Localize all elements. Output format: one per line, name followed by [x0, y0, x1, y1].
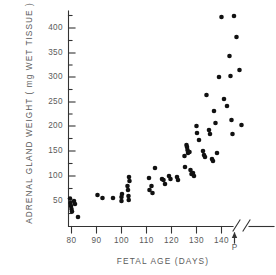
data-point	[127, 175, 132, 180]
scatter-plot-figure: ADRENAL GLAND WEIGHT ( mg WET TISSUE ) F…	[0, 0, 276, 275]
data-point	[126, 198, 131, 203]
axis-break-slash-1	[233, 220, 240, 231]
data-point	[168, 177, 173, 182]
data-point	[70, 209, 75, 214]
data-point	[126, 194, 131, 199]
data-point	[195, 131, 200, 136]
data-point	[153, 166, 158, 171]
x-tick-label: 120	[158, 236, 186, 245]
y-tick-label: 300	[33, 72, 63, 81]
data-point	[212, 109, 217, 114]
x-tick-label: 110	[133, 236, 161, 245]
data-point	[229, 118, 234, 123]
data-point	[194, 124, 199, 129]
data-point	[237, 68, 242, 73]
data-point	[119, 199, 124, 204]
x-tick-label: 90	[83, 236, 111, 245]
data-point	[230, 132, 235, 137]
data-point	[204, 93, 209, 98]
axes-group	[69, 11, 275, 243]
data-point	[203, 155, 208, 160]
data-point	[227, 54, 232, 59]
data-point	[163, 182, 168, 187]
x-axis-title: FETAL AGE (DAYS)	[68, 256, 258, 266]
data-point	[207, 128, 212, 133]
data-point	[239, 123, 244, 128]
data-point	[197, 138, 202, 143]
data-point	[219, 15, 224, 20]
x-tick-label: 100	[108, 236, 136, 245]
data-point	[182, 154, 187, 159]
data-point	[234, 35, 239, 40]
y-tick-label: 350	[33, 48, 63, 57]
data-point	[176, 178, 181, 183]
data-point	[149, 184, 154, 189]
data-point	[217, 75, 222, 80]
data-point	[161, 178, 166, 183]
y-tick-label: 150	[33, 146, 63, 155]
data-point	[120, 192, 125, 197]
data-point	[201, 149, 206, 154]
x-tick-label: 130	[183, 236, 211, 245]
data-point	[76, 215, 81, 220]
data-point	[150, 191, 155, 196]
data-point	[125, 184, 130, 189]
data-point	[213, 121, 218, 126]
data-point	[68, 196, 73, 201]
data-point	[232, 14, 237, 19]
data-point	[215, 151, 220, 156]
data-point	[211, 159, 216, 164]
y-tick-label: 250	[33, 97, 63, 106]
data-point	[187, 150, 192, 155]
x-tick-label: 80	[58, 236, 86, 245]
data-point	[111, 196, 116, 201]
data-point	[95, 193, 100, 198]
y-tick-label: 200	[33, 121, 63, 130]
plot-canvas	[0, 0, 276, 275]
axis-break-slash-2	[243, 220, 250, 231]
data-point	[147, 176, 152, 181]
data-point-layer	[68, 14, 244, 220]
data-point	[100, 196, 105, 201]
y-tick-label: 100	[33, 171, 63, 180]
data-point	[126, 188, 131, 193]
data-point	[73, 202, 78, 207]
y-tick-label: 50	[33, 196, 63, 205]
data-point	[208, 132, 213, 137]
data-point	[225, 104, 230, 109]
data-point	[222, 97, 227, 102]
parturition-label: P	[229, 243, 241, 252]
data-point	[183, 165, 188, 170]
data-point	[192, 174, 197, 179]
data-point	[228, 74, 233, 79]
y-tick-label: 400	[33, 23, 63, 32]
data-point	[127, 179, 132, 184]
x-major-ticks	[72, 227, 222, 234]
